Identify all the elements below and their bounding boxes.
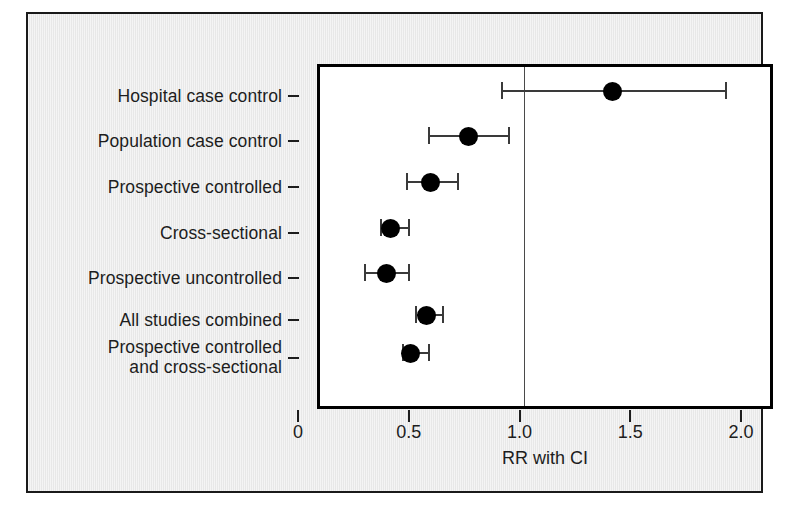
figure-panel: Hospital case controlPopulation case con…	[26, 12, 763, 493]
reference-line-at-1	[524, 67, 525, 406]
category-tick-5	[288, 277, 299, 279]
x-tick-0.5	[408, 410, 410, 422]
point-estimate-marker	[381, 219, 400, 238]
ci-upper-cap	[725, 82, 727, 99]
x-axis-title: RR with CI	[317, 448, 773, 469]
category-label-3: Prospective controlled	[108, 178, 282, 198]
x-tick-label-1.0: 1.0	[507, 422, 532, 443]
ci-lower-cap	[428, 127, 430, 144]
point-estimate-marker	[459, 127, 478, 146]
category-label-4: Cross-sectional	[160, 224, 282, 244]
point-estimate-marker	[401, 344, 420, 363]
x-tick-label-0: 0	[293, 422, 303, 443]
category-label-1: Hospital case control	[117, 87, 282, 107]
x-tick-1.0	[519, 410, 521, 422]
x-tick-1.5	[629, 410, 631, 422]
point-estimate-marker	[377, 264, 396, 283]
x-tick-label-2.0: 2.0	[728, 422, 753, 443]
plot-area	[317, 64, 773, 409]
ci-upper-cap	[508, 127, 510, 144]
point-estimate-marker	[421, 173, 440, 192]
ci-upper-cap	[442, 306, 444, 323]
x-tick-label-1.5: 1.5	[618, 422, 643, 443]
category-label-6: All studies combined	[120, 311, 283, 331]
ci-upper-cap	[457, 173, 459, 190]
category-tick-3	[288, 186, 299, 188]
ci-upper-cap	[408, 219, 410, 236]
x-tick-2.0	[740, 410, 742, 422]
category-label-5: Prospective uncontrolled	[88, 269, 282, 289]
point-estimate-marker	[603, 82, 622, 101]
category-tick-7	[288, 357, 299, 359]
ci-lower-cap	[364, 264, 366, 281]
category-tick-2	[288, 140, 299, 142]
ci-lower-cap	[406, 173, 408, 190]
ci-upper-cap	[428, 344, 430, 361]
category-label-7: Prospective controlled and cross-section…	[108, 338, 282, 377]
x-tick-label-0.5: 0.5	[396, 422, 421, 443]
category-label-2: Population case control	[98, 132, 282, 152]
category-tick-4	[288, 232, 299, 234]
point-estimate-marker	[417, 306, 436, 325]
category-tick-6	[288, 319, 299, 321]
y-axis-labels: Hospital case controlPopulation case con…	[28, 14, 300, 495]
ci-lower-cap	[501, 82, 503, 99]
category-tick-1	[288, 95, 299, 97]
x-tick-0	[297, 410, 299, 422]
ci-upper-cap	[408, 264, 410, 281]
